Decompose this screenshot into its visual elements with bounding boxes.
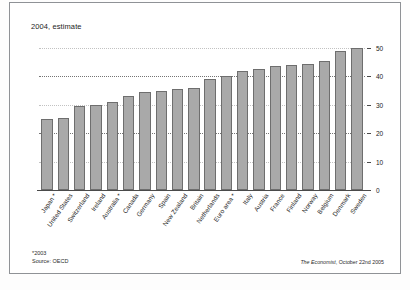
footnote: *2003 Source: OECD xyxy=(32,249,68,265)
x-tick-label: Spain xyxy=(157,192,172,210)
y-tick-label: 40 xyxy=(376,73,383,80)
bar xyxy=(172,89,183,190)
chart-title: 2004, estimate xyxy=(31,22,82,31)
bar xyxy=(351,48,362,190)
x-axis-line xyxy=(37,190,367,191)
bar xyxy=(188,88,199,190)
bar xyxy=(90,105,101,190)
bar xyxy=(319,61,330,190)
y-tick-mark xyxy=(367,105,371,106)
y-tick-mark xyxy=(367,76,371,77)
y-tick-label: 30 xyxy=(376,101,383,108)
bar xyxy=(41,119,52,190)
bar xyxy=(74,106,85,190)
bar-series xyxy=(39,48,365,190)
bar xyxy=(253,69,264,190)
x-tick-label: Italy xyxy=(241,192,254,206)
x-axis-labels: Japan *United StatesSwitzerlandIrelandAu… xyxy=(39,192,379,244)
y-tick-label: 50 xyxy=(376,45,383,52)
attribution: The Economist, October 22nd 2005 xyxy=(300,259,384,265)
bar xyxy=(302,64,313,190)
bar xyxy=(204,79,215,190)
bar xyxy=(270,66,281,190)
bar xyxy=(286,65,297,190)
y-tick-label: 10 xyxy=(376,158,383,165)
footnote-asterisk: *2003 xyxy=(32,249,68,257)
y-tick-mark xyxy=(367,190,371,191)
y-tick-label: 20 xyxy=(376,130,383,137)
bar xyxy=(58,118,69,190)
y-axis: 01020304050 xyxy=(367,48,401,190)
x-tick-label: France xyxy=(269,192,286,213)
attribution-date: , October 22nd 2005 xyxy=(336,259,384,265)
attribution-publication: The Economist xyxy=(300,259,335,265)
x-tick-label: Austria xyxy=(252,192,269,213)
bar xyxy=(237,71,248,190)
bar xyxy=(123,96,134,190)
footnote-source: Source: OECD xyxy=(32,257,68,265)
bar xyxy=(139,92,150,190)
chart-frame: 2004, estimate 01020304050 Japan *United… xyxy=(9,2,401,274)
bar xyxy=(221,76,232,190)
chart-figure: 2004, estimate 01020304050 Japan *United… xyxy=(0,0,410,290)
bar xyxy=(335,51,346,190)
x-tick-label: Finland xyxy=(284,192,302,213)
plot-area xyxy=(39,48,365,190)
y-tick-mark xyxy=(367,48,371,49)
bar xyxy=(107,102,118,190)
y-tick-mark xyxy=(367,162,371,163)
bar xyxy=(156,91,167,190)
y-tick-mark xyxy=(367,133,371,134)
